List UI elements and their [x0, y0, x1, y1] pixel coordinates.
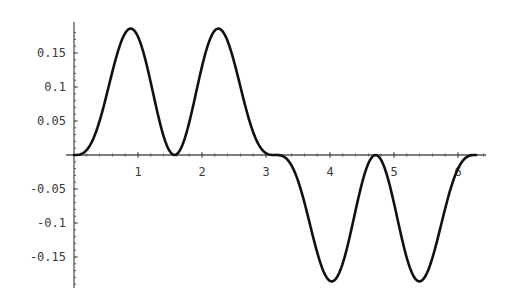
y-tick-label: 0.1 [44, 80, 66, 94]
y-tick-label: -0.05 [30, 182, 66, 196]
x-tick-label: 3 [262, 165, 269, 179]
x-tick-label: 2 [198, 165, 205, 179]
x-tick-label: 5 [390, 165, 397, 179]
y-tick-label: 0.15 [37, 46, 66, 60]
x-tick-label: 4 [326, 165, 333, 179]
x-axis-ticks: 123456 [134, 152, 461, 179]
y-tick-label: 0.05 [37, 114, 66, 128]
y-tick-label: -0.15 [30, 250, 66, 264]
axes: 123456 0.150.10.05-0.05-0.1-0.15 [30, 22, 486, 288]
x-tick-label: 1 [134, 165, 141, 179]
y-tick-label: -0.1 [37, 216, 66, 230]
line-chart: 123456 0.150.10.05-0.05-0.1-0.15 [0, 0, 510, 300]
minor-ticks [74, 33, 484, 285]
